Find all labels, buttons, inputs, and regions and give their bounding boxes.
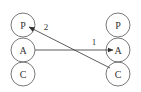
transaction-1-label: 1 <box>92 37 97 47</box>
right-person: P A C <box>106 13 130 86</box>
diagram-svg: P A C P A C <box>0 0 141 92</box>
transaction-1: 1 <box>35 37 113 50</box>
ego-state-diagram: P A C P A C <box>0 0 141 92</box>
left-adult-label: A <box>19 45 27 56</box>
left-person: P A C <box>11 13 35 86</box>
transaction-2: 2 <box>29 22 110 68</box>
left-child-label: C <box>20 69 27 80</box>
transaction-2-label: 2 <box>44 22 49 32</box>
left-child-state: C <box>11 62 35 86</box>
arrow-child-to-parent <box>29 27 110 68</box>
right-parent-state: P <box>106 13 130 37</box>
right-adult-label: A <box>114 45 122 56</box>
left-parent-state: P <box>11 13 35 37</box>
right-parent-label: P <box>115 20 121 31</box>
left-adult-state: A <box>11 38 35 62</box>
right-child-label: C <box>115 69 122 80</box>
left-parent-label: P <box>20 20 26 31</box>
right-child-state: C <box>106 62 130 86</box>
